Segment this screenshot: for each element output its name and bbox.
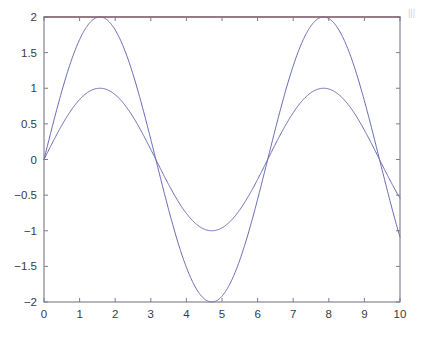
- y-tick-label: −0.5: [14, 189, 37, 201]
- y-tick-label: −2: [24, 296, 37, 308]
- x-tick-label: 5: [219, 308, 225, 320]
- x-tick-label: 1: [76, 308, 82, 320]
- x-tick-label: 4: [183, 308, 190, 320]
- plot-area-background: [44, 17, 400, 302]
- x-tick-label: 2: [112, 308, 118, 320]
- y-tick-label: 2: [31, 11, 37, 23]
- x-tick-label: 7: [290, 308, 296, 320]
- x-tick-label: 3: [148, 308, 154, 320]
- figure-canvas: 012345678910 −2−1.5−1−0.500.511.52 |||: [0, 0, 423, 344]
- x-tick-label: 0: [41, 308, 47, 320]
- y-axis-tick-labels: −2−1.5−1−0.500.511.52: [14, 11, 37, 308]
- x-tick-label: 9: [361, 308, 367, 320]
- y-tick-label: −1: [24, 225, 37, 237]
- x-tick-label: 8: [326, 308, 332, 320]
- x-tick-label: 6: [254, 308, 260, 320]
- y-tick-label: 1.5: [21, 47, 37, 59]
- y-tick-label: 0: [31, 154, 37, 166]
- y-tick-label: 0.5: [21, 118, 37, 130]
- y-tick-label: 1: [31, 82, 37, 94]
- right-edge-text-fragment: |||: [408, 8, 422, 19]
- line-chart[interactable]: 012345678910 −2−1.5−1−0.500.511.52: [0, 0, 423, 344]
- x-tick-label: 10: [394, 308, 407, 320]
- y-tick-label: −1.5: [14, 260, 37, 272]
- x-axis-tick-labels: 012345678910: [41, 308, 407, 320]
